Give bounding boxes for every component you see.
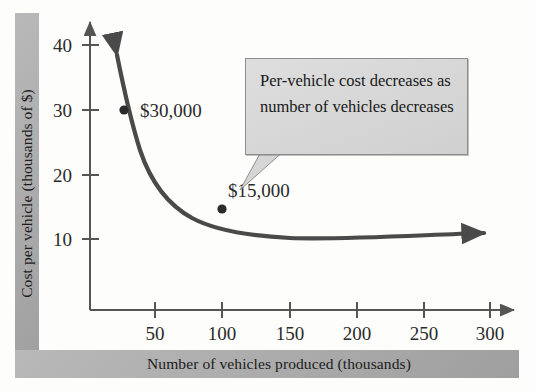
x-tick-label: 300 — [476, 323, 505, 344]
x-tick-label: 100 — [208, 323, 237, 344]
data-point-15000 — [217, 204, 226, 213]
annotation-callout: Per-vehicle cost decreases as number of … — [245, 58, 468, 155]
data-point-label-30000: $30,000 — [140, 100, 202, 121]
x-tick-label: 50 — [146, 323, 165, 344]
callout-tail — [240, 150, 300, 195]
x-tick-label: 150 — [276, 323, 305, 344]
y-tick-label: 40 — [53, 35, 72, 56]
data-point-30000 — [119, 105, 128, 114]
annotation-callout-text: Per-vehicle cost decreases as number of … — [260, 68, 459, 120]
x-tick-label: 200 — [343, 323, 372, 344]
y-tick-label: 30 — [53, 100, 72, 121]
y-tick-label: 10 — [53, 229, 72, 250]
chart-figure: Cost per vehicle (thousands of $) Number… — [0, 0, 535, 392]
x-tick-label: 250 — [410, 323, 439, 344]
y-tick-label: 20 — [53, 165, 72, 186]
